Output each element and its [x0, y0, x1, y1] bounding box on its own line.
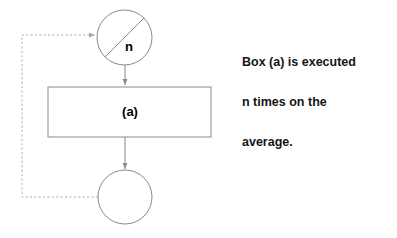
annotation-line-3: average. [242, 132, 392, 172]
node-loop-exit [98, 170, 152, 224]
node-label-a: (a) [0, 105, 260, 118]
diagram-canvas: n (a) Box (a) is executed n times on the… [0, 0, 397, 238]
annotation-line-2: n times on the [242, 92, 392, 132]
annotation-line-1: Box (a) is executed [242, 52, 392, 92]
node-label-n: n [125, 40, 133, 53]
annotation-text-block: Box (a) is executed n times on the avera… [242, 52, 392, 172]
